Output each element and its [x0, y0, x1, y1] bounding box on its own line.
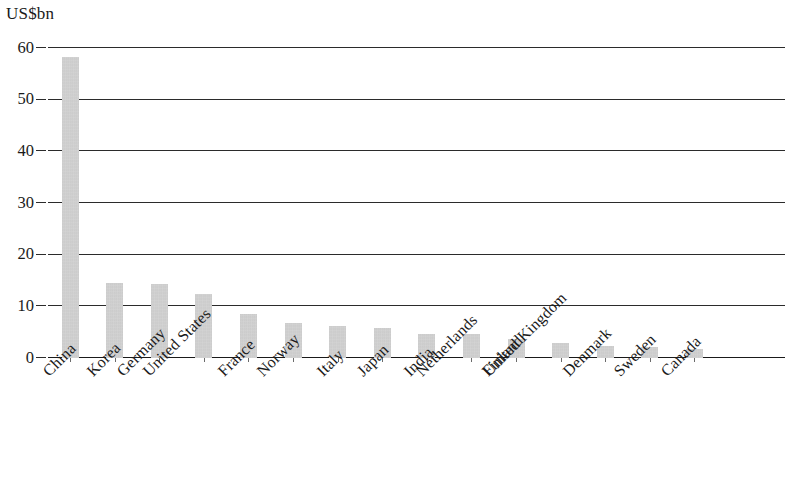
y-axis-tick-mark — [36, 254, 46, 255]
bar — [552, 343, 569, 359]
y-axis-tick-labels: 0102030405060 — [0, 48, 34, 358]
x-axis-tick-label: China — [40, 340, 79, 379]
y-axis-tick-mark — [36, 99, 46, 100]
y-axis-tick-mark — [36, 150, 46, 151]
x-axis-tick-labels: ChinaKoreaGermanyUnited StatesFranceNorw… — [0, 358, 791, 477]
y-axis-tick-label: 50 — [4, 91, 34, 108]
y-axis-tick-mark — [36, 305, 46, 306]
gridline — [48, 99, 785, 100]
gridline — [48, 202, 785, 203]
y-axis-tick-label: 20 — [4, 246, 34, 263]
y-axis-tick-mark — [36, 202, 46, 203]
y-axis-tick-label: 30 — [4, 195, 34, 212]
plot-area — [48, 48, 785, 358]
gridline — [48, 150, 785, 151]
y-axis-tick-mark — [36, 47, 46, 48]
y-axis-tick-label: 40 — [4, 143, 34, 160]
y-axis-tick-label: 60 — [4, 40, 34, 57]
bar-chart: US$bn 0102030405060 ChinaKoreaGermanyUni… — [0, 0, 791, 477]
gridline — [48, 254, 785, 255]
y-axis-tick-label: 10 — [4, 298, 34, 315]
gridline — [48, 47, 785, 48]
y-axis-title: US$bn — [6, 4, 54, 24]
bar — [62, 57, 79, 358]
